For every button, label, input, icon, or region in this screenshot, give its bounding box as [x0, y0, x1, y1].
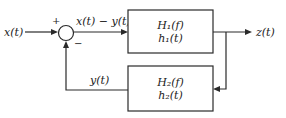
output-arrowhead-icon	[245, 29, 252, 35]
feedback-return-arrowhead-icon	[63, 41, 69, 48]
error-arrowhead-icon	[121, 29, 128, 35]
input-label: x(t)	[4, 26, 23, 39]
block-diagram: x(t) + − x(t) − y(t) H₁(f) h₁(t) z(t) H₂…	[0, 0, 286, 118]
feedback-block-impulse-response: h₂(t)	[158, 89, 183, 102]
error-label: x(t) − y(t)	[76, 15, 131, 28]
forward-block-impulse-response: h₁(t)	[158, 32, 183, 45]
feedback-block-transfer-function: H₂(f)	[156, 76, 184, 89]
feedback-label: y(t)	[89, 74, 109, 87]
feedback-block: H₂(f) h₂(t)	[128, 66, 213, 111]
forward-block-transfer-function: H₁(f)	[156, 19, 184, 32]
summing-junction-icon	[59, 26, 74, 41]
forward-block: H₁(f) h₁(t)	[128, 10, 213, 53]
feedback-arrowhead-icon	[213, 86, 220, 92]
minus-sign: −	[74, 38, 82, 49]
input-arrowhead-icon	[51, 29, 58, 35]
feedback-branch-line	[217, 32, 226, 89]
plus-sign: +	[52, 15, 60, 26]
output-label: z(t)	[255, 26, 275, 39]
